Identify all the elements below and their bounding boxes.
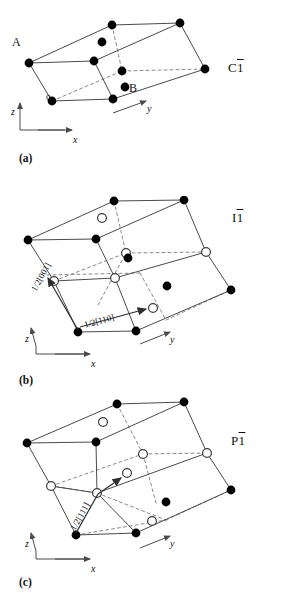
axis-label-y-b: y: [169, 334, 175, 345]
cell-edges-b: [28, 200, 231, 332]
axis-origin-label-a: o: [46, 92, 51, 102]
lattice-point: [92, 235, 101, 244]
axis-label-x-a: x: [72, 134, 78, 145]
lattice-point: [132, 327, 141, 336]
lattice-point: [132, 529, 141, 538]
lattice-point: [227, 486, 236, 495]
panel-c: z x y 1/2[111] (c) P1: [0, 396, 282, 598]
centring-point: [99, 418, 108, 427]
centring-point: [98, 38, 107, 47]
axes-a: [20, 101, 146, 130]
lattice-symbol-letter-a: C: [228, 60, 237, 75]
axis-label-y-c: y: [169, 538, 175, 549]
centring-points-b: [50, 214, 211, 313]
centring-point: [203, 449, 212, 458]
lattice-point: [113, 400, 122, 409]
axis-label-z-a: z: [10, 106, 15, 117]
panel-a: A B o z x y (a) C1: [0, 0, 282, 196]
lattice-symbol-a: C1: [228, 60, 244, 76]
axis-label-z-c: z: [24, 538, 29, 549]
triclinic-lattice-figure: A B o z x y (a) C1: [0, 0, 282, 598]
centring-points-c: [47, 418, 212, 526]
centring-point: [139, 450, 148, 459]
lattice-point: [108, 21, 117, 30]
panel-tag-b: (b): [19, 374, 33, 386]
lattice-point: [124, 254, 133, 263]
lattice-symbol-b: I1: [232, 210, 243, 226]
lattice-point: [90, 57, 99, 66]
lattice-point: [23, 439, 32, 448]
centring-point: [111, 274, 120, 283]
vector-arrow-001: [48, 278, 78, 330]
lattice-point: [92, 438, 101, 447]
lattice-symbol-number-b: 1: [237, 210, 244, 225]
lattice-point: [162, 498, 171, 507]
lattice-point: [25, 59, 34, 68]
axis-label-y-a: y: [146, 103, 152, 114]
lattice-point: [176, 19, 185, 28]
axis-label-z-b: z: [24, 333, 29, 344]
lattice-point: [201, 65, 210, 74]
axes-c: [31, 533, 170, 559]
lattice-symbol-c: P1: [231, 433, 245, 449]
lattice-symbol-letter-c: P: [231, 433, 239, 448]
centring-point: [98, 214, 107, 223]
lattice-point: [180, 196, 189, 204]
lattice-point: [24, 236, 33, 245]
lattice-symbol-number-c: 1: [239, 433, 246, 448]
axis-label-x-c: x: [90, 563, 96, 574]
centring-point: [47, 482, 56, 491]
centring-point: [123, 469, 132, 478]
panel-a-drawing: A B o z x y: [0, 0, 282, 196]
lattice-point: [118, 67, 127, 76]
lattice-point: [109, 95, 118, 104]
centring-point: [202, 248, 211, 257]
centring-point: [148, 517, 157, 526]
lattice-symbol-number-a: 1: [237, 60, 244, 75]
axis-label-x-b: x: [90, 358, 96, 369]
panel-b: z x y 1/2[001] 1/2[110] (b) I1: [0, 196, 282, 396]
panel-tag-c: (c): [19, 576, 32, 588]
point-label-A: A: [12, 35, 21, 49]
lattice-point: [180, 398, 189, 407]
panel-tag-a: (a): [19, 152, 32, 164]
panel-b-cell: z x y: [0, 196, 282, 396]
centring-point: [149, 304, 158, 313]
lattice-point: [110, 197, 119, 206]
panel-c-drawing: z x y: [0, 396, 282, 598]
lattice-point: [227, 286, 236, 295]
lattice-point: [163, 282, 172, 291]
point-label-B: B: [129, 81, 137, 95]
